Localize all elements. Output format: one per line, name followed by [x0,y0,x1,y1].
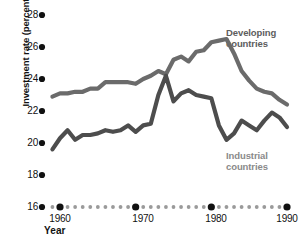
series-line-industrial [52,76,287,150]
plot-area [0,0,304,240]
x-axis-tick-dots [51,203,291,210]
investment-rate-line-chart: Investment rate (percentage of GDP) 28 2… [0,0,304,240]
y-axis-tick-dots [39,12,45,210]
data-lines [52,39,287,149]
